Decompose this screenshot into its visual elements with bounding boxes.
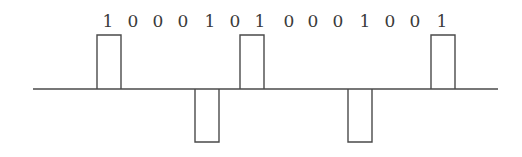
bit-label: 0	[178, 11, 189, 31]
bit-label: 0	[230, 11, 241, 31]
negative-pulse	[348, 89, 372, 142]
negative-pulse	[195, 89, 219, 142]
bit-label: 1	[255, 11, 266, 31]
bit-label: 1	[360, 11, 371, 31]
bit-label: 1	[103, 11, 114, 31]
bit-sequence-labels: 10001010001001	[103, 11, 448, 31]
bit-label: 1	[437, 11, 448, 31]
bit-label: 0	[128, 11, 139, 31]
bit-label: 0	[410, 11, 421, 31]
line-code-diagram: 10001010001001	[0, 0, 522, 157]
positive-pulse	[431, 35, 455, 89]
bit-label: 0	[385, 11, 396, 31]
bit-label: 0	[333, 11, 344, 31]
positive-pulse	[97, 35, 121, 89]
bit-label: 0	[153, 11, 164, 31]
positive-pulse	[240, 35, 264, 89]
bit-label: 0	[284, 11, 295, 31]
bit-label: 0	[308, 11, 319, 31]
bit-label: 1	[205, 11, 216, 31]
